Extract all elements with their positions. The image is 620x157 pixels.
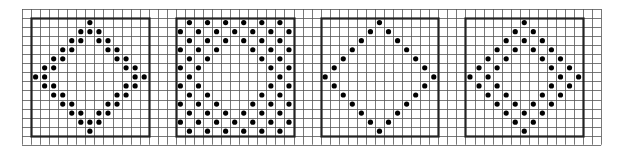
grid-dot [576, 74, 581, 79]
grid-dot [123, 92, 128, 97]
grid-dot [123, 83, 128, 88]
grid-dot [178, 65, 183, 70]
grid-dot [87, 29, 92, 34]
grid-dot [513, 29, 518, 34]
grid-dot [395, 110, 400, 115]
grid-dot [522, 129, 527, 134]
grid-dot [386, 29, 391, 34]
grid-dot [223, 20, 228, 25]
grid-dot [114, 56, 119, 61]
grid-dot [105, 47, 110, 52]
grid-dot [268, 101, 273, 106]
grid-dot [549, 101, 554, 106]
grid-dot [60, 92, 65, 97]
grid-dot [187, 74, 192, 79]
grid-dot [123, 65, 128, 70]
grid-dot [178, 47, 183, 52]
grid-dot [413, 56, 418, 61]
grid-dot [323, 74, 328, 79]
grid-dot [223, 110, 228, 115]
grid-dot [250, 47, 255, 52]
grid-dot [259, 38, 264, 43]
grid-dot [187, 20, 192, 25]
grid-dot [368, 29, 373, 34]
grid-dot [69, 110, 74, 115]
grid-dot [114, 101, 119, 106]
grid-dot [250, 101, 255, 106]
grid-dot [196, 47, 201, 52]
grid-dot [187, 38, 192, 43]
grid-dot [277, 38, 282, 43]
grid-dot [69, 47, 74, 52]
grid-dot [495, 83, 500, 88]
grid-dot [476, 65, 481, 70]
grid-dot [78, 29, 83, 34]
grid-dot [142, 74, 147, 79]
grid-dot [78, 110, 83, 115]
grid-dot [513, 101, 518, 106]
grid-dot [531, 120, 536, 125]
grid-dot [268, 83, 273, 88]
grid-dot [42, 83, 47, 88]
grid-dot [341, 56, 346, 61]
grid-dot [495, 65, 500, 70]
grid-dot [567, 83, 572, 88]
grid-dot [504, 56, 509, 61]
grid-dot [286, 101, 291, 106]
grid-dot [105, 101, 110, 106]
grid-dot [105, 110, 110, 115]
grid-dot [60, 56, 65, 61]
grid-dot [558, 74, 563, 79]
grid-dot [241, 129, 246, 134]
grid-dot [277, 129, 282, 134]
grid-dot [513, 47, 518, 52]
grid-dot [205, 38, 210, 43]
grid-dot [286, 47, 291, 52]
grid-dot [268, 65, 273, 70]
grid-dot [549, 65, 554, 70]
grid-dot [196, 29, 201, 34]
grid-dot [96, 29, 101, 34]
grid-dot [214, 101, 219, 106]
grid-dot [214, 29, 219, 34]
grid-dot [105, 38, 110, 43]
grid-dot [549, 83, 554, 88]
grid-dot [531, 101, 536, 106]
grid-dot [33, 74, 38, 79]
grid-dot [51, 65, 56, 70]
grid-dot [214, 47, 219, 52]
grid-dot [268, 29, 273, 34]
grid-dot [531, 29, 536, 34]
grid-dot [114, 47, 119, 52]
grid-dot [241, 20, 246, 25]
grid-dot [404, 101, 409, 106]
grid-dot [178, 120, 183, 125]
grid-dot [268, 120, 273, 125]
grid-dot [60, 47, 65, 52]
grid-dot [359, 38, 364, 43]
grid-dot [214, 120, 219, 125]
grid-dot [187, 129, 192, 134]
grid-dot [205, 110, 210, 115]
grid-dot [223, 129, 228, 134]
grid-dot [476, 83, 481, 88]
grid-dot [368, 120, 373, 125]
grid-dot [268, 47, 273, 52]
grid-dot [558, 56, 563, 61]
grid-dot [114, 92, 119, 97]
grid-dot [250, 29, 255, 34]
grid-dot [422, 83, 427, 88]
grid-dot [540, 92, 545, 97]
grid-dot [259, 20, 264, 25]
grid-dot [504, 92, 509, 97]
grid-dot [259, 92, 264, 97]
grid-dot [241, 38, 246, 43]
grid-dot [377, 20, 382, 25]
grid-dot [540, 56, 545, 61]
grid-dot [395, 38, 400, 43]
grid-dot [187, 92, 192, 97]
grid-dot [87, 120, 92, 125]
grid-dot [485, 74, 490, 79]
grid-dot [277, 110, 282, 115]
grid-dot [332, 65, 337, 70]
